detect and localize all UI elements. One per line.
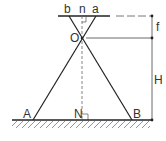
label-a: a [92, 2, 99, 16]
label-B: B [133, 107, 141, 121]
right-angle-marker-n [82, 16, 86, 22]
label-f: f [156, 20, 160, 34]
label-N: N [74, 107, 83, 121]
label-H: H [154, 73, 163, 87]
ray-a-to-A [33, 16, 96, 120]
label-O: O [70, 31, 79, 45]
ground-hatching [12, 121, 150, 128]
photogrammetry-diagram: b n a O A N B f H [0, 0, 166, 141]
dimension-dot-top [151, 15, 154, 18]
label-A: A [23, 107, 31, 121]
perspective-center-O [81, 37, 84, 40]
right-angle-marker-N [82, 114, 88, 120]
label-n: n [79, 2, 86, 16]
dimension-dot-middle [151, 37, 154, 40]
label-b: b [64, 2, 71, 16]
dimension-dot-bottom [151, 119, 154, 122]
